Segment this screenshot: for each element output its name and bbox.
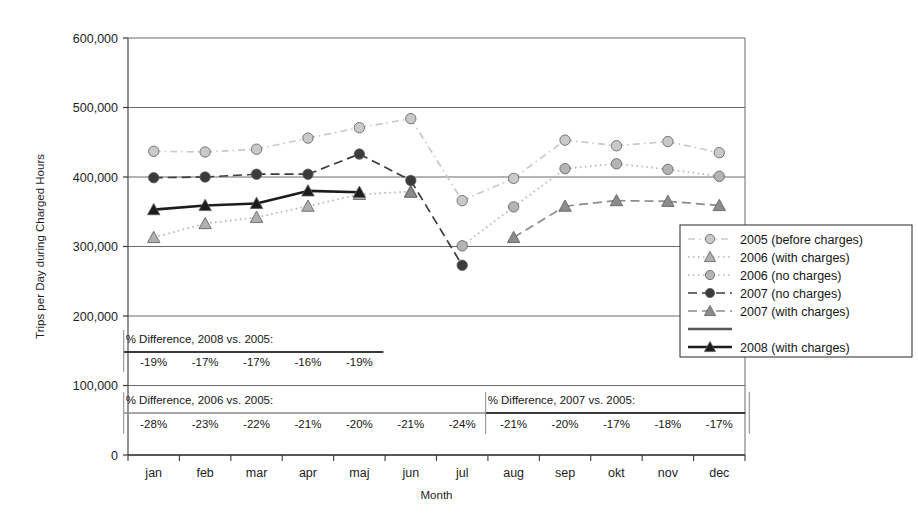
data-point-marker-circle [354,149,364,159]
x-axis-title: Month [421,489,453,501]
x-axis-tick-label: maj [349,466,369,480]
data-point-marker-circle [457,195,467,205]
legend-marker-circle [705,288,714,297]
annotation-value: -23% [192,418,219,430]
data-point-marker-circle [149,172,159,182]
annotation-value: -17% [706,418,733,430]
data-point-marker-circle [714,171,724,181]
annotation-value: -19% [140,356,167,368]
data-point-marker-circle [303,169,313,179]
annotation-value: -17% [603,418,630,430]
x-axis-tick-label: feb [196,466,213,480]
data-point-marker-circle [457,241,467,251]
y-axis-tick-label: 500,000 [73,101,118,115]
annotation-value: -28% [140,418,167,430]
data-point-marker-circle [200,172,210,182]
data-point-marker-circle [508,173,518,183]
data-point-marker-circle [200,147,210,157]
x-axis-tick-label: apr [299,466,317,480]
y-axis-tick-label: 300,000 [73,240,118,254]
data-point-marker-circle [251,169,261,179]
y-axis-tick-label: 100,000 [73,379,118,393]
data-point-marker-circle [560,135,570,145]
legend-item-label: 2007 (no charges) [740,287,841,301]
y-axis-tick-label: 400,000 [73,171,118,185]
annotation-value: -21% [500,418,527,430]
annotation-value: -21% [295,418,322,430]
annotation-value: -21% [397,418,424,430]
data-point-marker-circle [663,136,673,146]
data-point-marker-circle [149,146,159,156]
data-point-marker-circle [611,159,621,169]
annotation-value: -17% [243,356,270,368]
y-axis-tick-label: 600,000 [73,32,118,46]
data-point-marker-circle [714,147,724,157]
legend: 2005 (before charges)2006 (with charges)… [680,225,912,357]
y-axis-tick-label: 200,000 [73,310,118,324]
y-axis-tick-label: 0 [111,449,118,463]
x-axis-tick-label: sep [555,466,575,480]
data-point-marker-circle [251,144,261,154]
annotation-value: -18% [654,418,681,430]
legend-item-label: 2005 (before charges) [740,233,863,247]
annotation-title: % Difference, 2006 vs. 2005: [126,394,273,406]
line-chart-canvas: 600,000500,000400,000300,000200,000100,0… [0,0,918,522]
x-axis-tick-label: dec [709,466,729,480]
legend-marker-circle [705,234,714,243]
legend-marker-circle [705,270,714,279]
data-point-marker-circle [457,260,467,270]
data-point-marker-circle [560,163,570,173]
legend-item-label: 2007 (with charges) [740,305,850,319]
annotation-value: -19% [346,356,373,368]
legend-item-label: 2006 (with charges) [740,251,850,265]
data-point-marker-circle [611,141,621,151]
annotation-title: % Difference, 2008 vs. 2005: [126,333,273,345]
x-axis-tick-label: mar [246,466,268,480]
annotation-value: -16% [295,356,322,368]
data-point-marker-circle [406,113,416,123]
annotation-value: -22% [243,418,270,430]
data-point-marker-circle [303,133,313,143]
x-axis-tick-label: aug [503,466,524,480]
data-point-marker-circle [663,164,673,174]
x-axis-tick-label: jul [455,466,469,480]
x-axis-tick-label: nov [658,466,679,480]
x-axis-tick-label: jun [401,466,419,480]
data-point-marker-circle [354,122,364,132]
series-line-segment [308,191,359,192]
legend-item-label: 2006 (no charges) [740,269,841,283]
y-axis-title: Trips per Day during Charged Hours [34,154,46,339]
data-point-marker-circle [508,202,518,212]
legend-item-label: 2008 (with charges) [740,341,850,355]
annotation-title: % Difference, 2007 vs. 2005: [488,394,635,406]
x-axis-tick-label: okt [608,466,625,480]
annotation-value: -24% [449,418,476,430]
annotation-value: -20% [346,418,373,430]
annotation-value: -17% [192,356,219,368]
annotation-value: -20% [552,418,579,430]
data-point-marker-circle [406,175,416,185]
chart-figure: 600,000500,000400,000300,000200,000100,0… [0,0,918,522]
x-axis-tick-label: jan [144,466,162,480]
